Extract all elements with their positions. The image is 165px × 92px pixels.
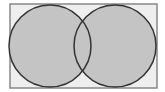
venn-diagram [0, 0, 165, 92]
